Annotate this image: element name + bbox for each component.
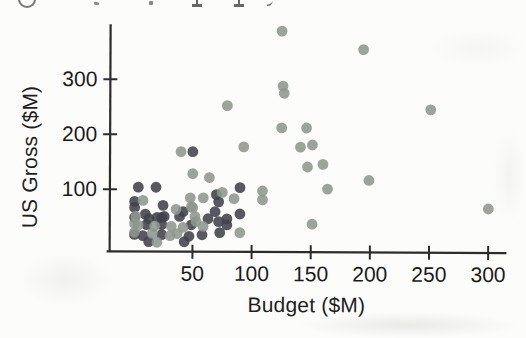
axis-line — [107, 251, 507, 253]
data-point — [217, 187, 228, 198]
data-point — [322, 184, 333, 195]
data-point — [425, 104, 436, 115]
data-point — [138, 195, 149, 206]
data-point — [307, 140, 318, 151]
scatter-chart: 10020030050100150200250300 US Gross ($M)… — [0, 0, 526, 338]
data-point — [159, 211, 170, 222]
tick-label: 100 — [62, 177, 97, 200]
data-point — [151, 182, 162, 193]
data-point — [171, 204, 182, 215]
data-point — [172, 228, 183, 239]
data-point — [221, 213, 232, 224]
data-point — [140, 209, 151, 220]
data-point — [276, 122, 287, 133]
data-point — [257, 194, 268, 205]
axis-line — [110, 24, 111, 251]
data-point — [277, 26, 288, 37]
tick-label: 50 — [181, 262, 204, 285]
data-point — [176, 146, 187, 157]
tick-label: 250 — [411, 263, 446, 286]
x-axis-title: Budget ($M) — [247, 293, 365, 318]
data-point — [234, 209, 245, 220]
data-point — [301, 123, 312, 134]
tick-label: 300 — [470, 263, 505, 286]
data-point — [179, 236, 190, 247]
data-point — [235, 182, 246, 193]
data-point — [302, 162, 313, 173]
data-point — [229, 193, 240, 204]
data-point — [238, 141, 249, 152]
data-point — [279, 88, 290, 99]
y-axis-title: US Gross ($M) — [18, 86, 43, 229]
data-point — [317, 159, 328, 170]
data-point — [483, 204, 494, 215]
data-point — [213, 196, 224, 207]
data-point — [190, 211, 201, 222]
data-point — [364, 175, 375, 186]
data-point — [204, 172, 215, 183]
tick-label: 200 — [352, 262, 387, 285]
data-point — [198, 221, 209, 232]
data-point — [130, 211, 141, 222]
data-point — [214, 227, 225, 238]
data-point — [210, 206, 221, 217]
scatter-plot-canvas: 10020030050100150200250300 — [0, 0, 526, 338]
data-point — [234, 227, 245, 238]
tick-label: 100 — [234, 262, 269, 285]
scanned-figure-page: 10020030050100150200250300 US Gross ($M)… — [0, 0, 526, 338]
data-point — [307, 219, 318, 230]
data-point — [222, 100, 233, 111]
tick-label: 300 — [62, 67, 97, 90]
data-point — [198, 192, 209, 203]
data-point — [133, 182, 144, 193]
data-point — [295, 142, 306, 153]
data-point — [187, 168, 198, 179]
tick-label: 200 — [62, 122, 97, 145]
data-point — [358, 44, 369, 55]
tick-label: 150 — [293, 262, 328, 285]
data-point — [158, 200, 169, 211]
data-point — [129, 227, 140, 238]
data-point — [187, 146, 198, 157]
data-point — [152, 237, 163, 248]
